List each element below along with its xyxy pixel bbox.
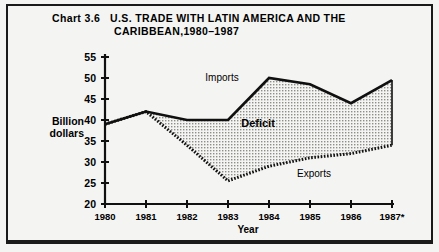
deficit-shaded-area [105, 78, 392, 181]
deficit-area-path [105, 78, 392, 181]
x-tick-label: 1987* [380, 211, 405, 222]
series-label-exports: Exports [297, 168, 331, 179]
y-tick-label: 50 [84, 72, 96, 84]
x-tick-label: 1985 [299, 211, 321, 222]
y-axis-title-line-1: Billion [52, 115, 84, 127]
y-axis-title-line-2: dollars [50, 127, 85, 139]
y-tick-label: 45 [84, 93, 96, 105]
y-tick-label: 30 [84, 156, 96, 168]
x-tick-label: 1984 [258, 211, 280, 222]
chart-plot-area: 2025303540455055 19801981198219831984198… [0, 0, 439, 252]
x-tick-label: 1981 [135, 211, 157, 222]
y-tick-label: 40 [84, 114, 96, 126]
x-tick-label: 1983 [217, 211, 238, 222]
y-axis-tick-labels: 2025303540455055 [84, 51, 96, 210]
chart-figure: Chart 3.6U.S. TRADE WITH LATIN AMERICA A… [0, 0, 439, 252]
x-tick-label: 1982 [176, 211, 197, 222]
y-tick-label: 35 [84, 135, 96, 147]
area-label-deficit: Deficit [241, 117, 275, 129]
y-tick-label: 55 [84, 51, 96, 63]
series-label-imports: Imports [205, 72, 238, 83]
x-axis-title: Year [237, 224, 258, 235]
y-tick-label: 25 [84, 177, 96, 189]
x-tick-label: 1986 [340, 211, 361, 222]
x-axis-tick-labels: 19801981198219831984198519861987* [94, 211, 404, 222]
x-tick-label: 1980 [94, 211, 115, 222]
y-tick-label: 20 [84, 198, 96, 210]
